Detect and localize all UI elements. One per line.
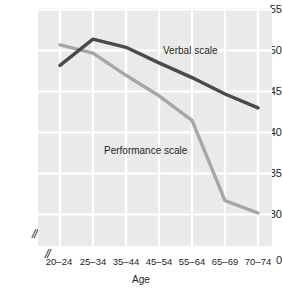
xtick-label-65-69: 65–69	[208, 257, 242, 267]
xtick-label-20-24: 20–24	[42, 257, 76, 267]
y-axis-break-icon: //	[32, 228, 37, 240]
series-annotation-verbal-scale: Verbal scale	[163, 46, 217, 56]
chart-figure: 55 50 45 40 35 30 0 // //	[0, 0, 282, 289]
xtick-label-25-34: 25–34	[76, 257, 110, 267]
plot-background	[38, 8, 272, 246]
xtick-label-55-64: 55–64	[175, 257, 209, 267]
xtick-label-45-54: 45–54	[142, 257, 176, 267]
plot-area	[38, 8, 272, 246]
xtick-label-35-44: 35–44	[109, 257, 143, 267]
xtick-label-70-74: 70–74	[241, 257, 275, 267]
x-axis-title: Age	[0, 275, 282, 285]
series-annotation-performance-scale: Performance scale	[104, 146, 187, 156]
